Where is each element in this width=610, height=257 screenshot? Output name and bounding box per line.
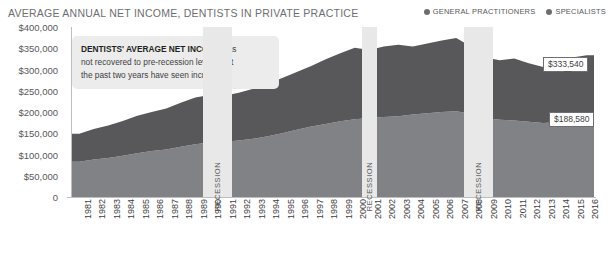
x-axis-tick-label: 2012 — [532, 199, 542, 219]
legend-dot-icon — [424, 9, 430, 15]
x-axis-tick-label: 1989 — [199, 199, 209, 219]
x-axis-tick-label: 2002 — [387, 199, 397, 219]
x-axis-tick-label: 1990 — [213, 199, 223, 219]
x-axis-tick-label: 2007 — [460, 199, 470, 219]
x-axis-tick-label: 2008 — [474, 199, 484, 219]
annotation-box: DENTISTS' AVERAGE NET INCOME has not rec… — [72, 36, 279, 89]
x-axis-tick-label: 1997 — [315, 199, 325, 219]
x-axis-tick-label: 2005 — [431, 199, 441, 219]
y-axis-tick-label: $300,000 — [18, 64, 58, 75]
x-axis-tick-label: 1998 — [329, 199, 339, 219]
x-axis-tick-label: 2014 — [561, 199, 571, 219]
legend-label: SPECIALISTS — [555, 7, 606, 16]
x-axis-tick-label: 2016 — [590, 199, 600, 219]
x-axis-tick-label: 1987 — [170, 199, 180, 219]
legend-item-general-practitioners: GENERAL PRACTITIONERS — [424, 7, 536, 16]
chart-root: AVERAGE ANNUAL NET INCOME, DENTISTS IN P… — [0, 0, 610, 257]
x-axis-tick-label: 2006 — [445, 199, 455, 219]
x-axis-line — [71, 197, 596, 198]
annotation-text: DENTISTS' AVERAGE NET INCOME has not rec… — [81, 43, 270, 82]
callout-arrow-icon — [564, 71, 572, 77]
x-axis-tick-label: 1996 — [300, 199, 310, 219]
y-axis-tick-label: $200,000 — [18, 107, 58, 118]
gp-callout: $188,580 — [549, 112, 594, 127]
callout-value: $333,540 — [548, 59, 583, 69]
y-axis-tick-label: $100,000 — [18, 149, 58, 160]
x-axis-tick-label: 2009 — [489, 199, 499, 219]
annotation-bold: DENTISTS' AVERAGE NET INCOME — [81, 44, 221, 54]
y-axis-tick-label: 0 — [53, 192, 58, 203]
x-axis-tick-label: 2013 — [547, 199, 557, 219]
x-axis-tick-label: 2000 — [358, 199, 368, 219]
x-axis-tick-label: 1993 — [257, 199, 267, 219]
recession-band: RECESSION — [362, 27, 377, 197]
x-axis-tick-label: 2004 — [416, 199, 426, 219]
x-axis-tick-label: 1999 — [344, 199, 354, 219]
x-axis-tick-label: 1994 — [271, 199, 281, 219]
x-axis-tick-label: 2011 — [518, 199, 528, 218]
x-axis-tick-label: 2003 — [402, 199, 412, 219]
x-axis-tick-label: 1995 — [286, 199, 296, 219]
y-axis-tick-label: $50,000 — [24, 170, 58, 181]
callout-value: $188,580 — [554, 114, 589, 124]
x-axis-tick-label: 2010 — [503, 199, 513, 219]
x-axis-tick-label: 2001 — [373, 199, 383, 219]
legend: GENERAL PRACTITIONERS SPECIALISTS — [424, 7, 606, 16]
x-axis-tick-label: 1986 — [155, 199, 165, 219]
x-axis-tick-label: 1982 — [97, 199, 107, 219]
y-axis-tick-label: $250,000 — [18, 85, 58, 96]
y-axis-labels: $400,000$350,000$300,000$250,000$200,000… — [0, 0, 66, 257]
y-axis-tick-label: $350,000 — [18, 43, 58, 54]
y-axis-tick-label: $150,000 — [18, 128, 58, 139]
x-axis-labels: 1981198219831984198519861987198819891990… — [72, 199, 594, 245]
x-axis-tick-label: 1984 — [126, 199, 136, 219]
x-axis-tick-label: 1985 — [141, 199, 151, 219]
x-axis-tick-label: 1991 — [228, 199, 238, 219]
x-axis-tick-label: 2015 — [576, 199, 586, 219]
y-axis-tick-label: $400,000 — [18, 22, 58, 33]
legend-label: GENERAL PRACTITIONERS — [433, 7, 536, 16]
legend-item-specialists: SPECIALISTS — [546, 7, 606, 16]
recession-band: RECESSION — [203, 27, 232, 197]
legend-dot-icon — [546, 9, 552, 15]
x-axis-tick-label: 1988 — [184, 199, 194, 219]
x-axis-tick-label: 1983 — [112, 199, 122, 219]
x-axis-tick-label: 1992 — [242, 199, 252, 219]
recession-band: RECESSION — [464, 27, 493, 197]
x-axis-tick-label: 1981 — [83, 199, 93, 219]
